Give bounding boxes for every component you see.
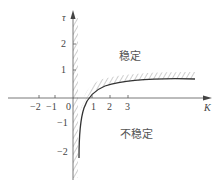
hatch-curve <box>80 72 195 112</box>
y-tick-label: 1 <box>61 65 66 75</box>
y-axis-arrow-icon <box>71 10 76 19</box>
stability-boundary-curve <box>79 79 195 158</box>
stable-region-label: 稳定 <box>119 51 141 62</box>
stability-plot <box>0 0 224 188</box>
x-tick-label: −1 <box>46 102 57 112</box>
x-tick-label: 0 <box>66 102 71 112</box>
x-tick-label: 2 <box>107 102 112 112</box>
x-axis-label: K <box>204 103 211 113</box>
y-tick-label: 2 <box>61 39 66 49</box>
x-ticks <box>39 95 128 98</box>
y-axis-label: τ <box>62 13 66 23</box>
x-tick-label: 1 <box>91 102 96 112</box>
x-tick-label: 3 <box>125 102 130 112</box>
y-tick-label: −2 <box>57 147 68 157</box>
x-axis-arrow-icon <box>203 96 212 101</box>
x-tick-label: −2 <box>30 102 41 112</box>
unstable-region-label: 不稳定 <box>120 129 153 140</box>
y-tick-label: −1 <box>57 118 68 128</box>
